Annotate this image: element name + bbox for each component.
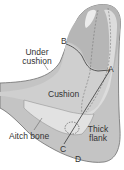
cut-point-b: B [61,37,67,46]
label-aitch-bone: Aitch bone [9,132,49,141]
label-under-cushion-line2: cushion [22,57,52,66]
cut-point-c: C [60,145,66,154]
label-thick-flank-line2: flank [87,134,109,143]
label-under-cushion: Under cushion [22,48,52,66]
cut-point-a: A [108,65,114,74]
label-cushion: Cushion [48,90,79,99]
cut-point-d: D [75,155,81,164]
label-thick-flank: Thick flank [87,125,109,143]
